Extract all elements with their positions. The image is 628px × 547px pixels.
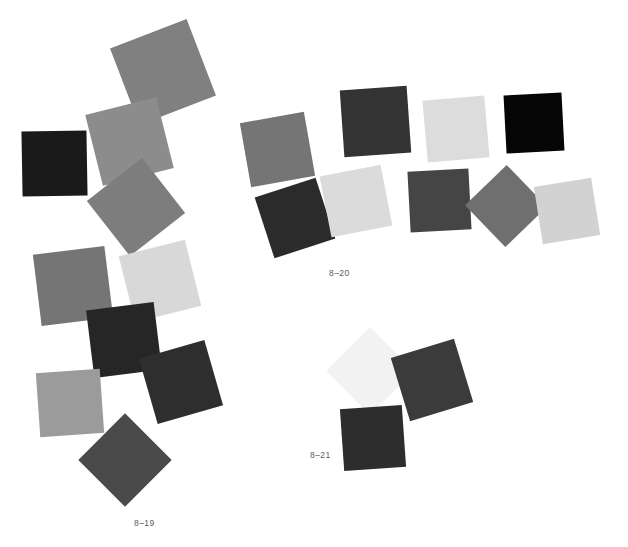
swatch-821-2 (391, 339, 473, 421)
swatch-820-8 (465, 165, 547, 247)
swatch-820-2 (340, 86, 412, 158)
swatch-820-4 (504, 93, 565, 154)
figure-caption-fig-8-20: 8–20 (329, 269, 350, 278)
swatch-820-6 (320, 165, 393, 238)
swatch-820-3 (422, 95, 489, 162)
figure-group-8-19: 8–19 (0, 0, 628, 547)
swatch-820-7 (407, 168, 471, 232)
swatch-820-9 (534, 178, 600, 244)
swatch-819-3 (21, 130, 87, 196)
swatch-821-3 (340, 405, 406, 471)
swatch-819-9 (36, 369, 104, 437)
swatch-820-1 (240, 112, 315, 187)
figure-plate: 8–19 8–20 8–21 (0, 0, 628, 547)
figure-caption-fig-8-19: 8–19 (134, 519, 155, 528)
figure-caption-fig-8-21: 8–21 (310, 451, 331, 460)
